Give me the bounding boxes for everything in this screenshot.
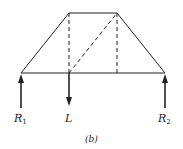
- figure-caption: (b): [85, 134, 98, 144]
- r1-label: R1: [13, 112, 27, 126]
- inner-diagonal-dashed: [69, 13, 117, 73]
- right-diagonal-member: [117, 13, 165, 73]
- r2-label: R2: [157, 112, 171, 126]
- r2-arrowhead-icon: [162, 74, 168, 83]
- r1-arrowhead-icon: [18, 74, 24, 83]
- load-label: L: [64, 112, 72, 125]
- left-diagonal-member: [21, 13, 69, 73]
- truss-diagram: R1 L R2 (b): [0, 0, 183, 149]
- load-arrowhead-icon: [66, 97, 72, 106]
